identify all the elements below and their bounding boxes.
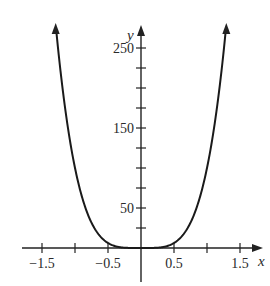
curve-right-arrow-icon xyxy=(222,23,230,34)
x-axis-label: x xyxy=(257,253,265,269)
x-tick-label: −0.5 xyxy=(95,256,120,271)
x-tick-label: 1.5 xyxy=(231,256,249,271)
y-tick-label: 150 xyxy=(113,121,134,136)
x-axis-arrow-icon xyxy=(252,244,263,252)
chart: −1.5−0.50.51.550150250 x y xyxy=(0,0,270,286)
y-axis-label: y xyxy=(125,27,134,43)
tick-labels: −1.5−0.50.51.550150250 xyxy=(29,41,248,271)
y-tick-label: 50 xyxy=(120,201,134,216)
x-tick-label: 0.5 xyxy=(165,256,183,271)
arrow-icons xyxy=(52,23,263,252)
y-axis-arrow-icon xyxy=(137,25,145,36)
curve-left-arrow-icon xyxy=(52,23,60,34)
y-tick-label: 250 xyxy=(113,41,134,56)
x-tick-label: −1.5 xyxy=(29,256,54,271)
